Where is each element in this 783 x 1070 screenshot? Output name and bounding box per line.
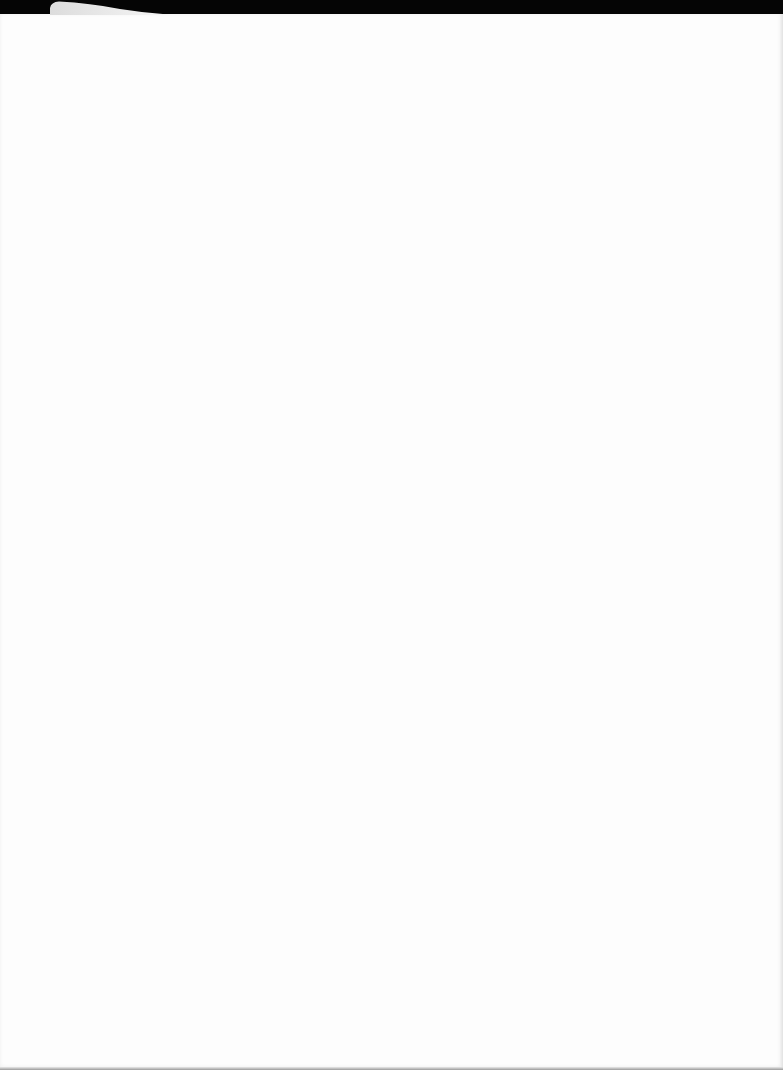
curled-corner-icon (50, 1, 168, 15)
photo-scene (0, 0, 783, 1070)
blank-paper-sheet (0, 14, 783, 1070)
